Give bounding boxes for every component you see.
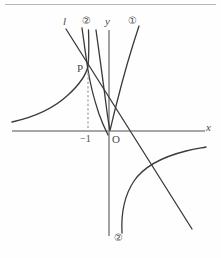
curve-2-bottom-label: ② bbox=[114, 233, 123, 243]
curve-1-label: ① bbox=[128, 16, 137, 26]
math-figure: l ② y ① P −1 O x ② bbox=[0, 0, 221, 258]
point-p-label: P bbox=[77, 63, 83, 74]
y-axis-label: y bbox=[105, 16, 110, 27]
curve-hyperbola-upper-left bbox=[12, 30, 89, 122]
curve-parabola bbox=[96, 26, 139, 131]
x-axis-label: x bbox=[206, 122, 211, 133]
line-l-label: l bbox=[63, 16, 66, 27]
figure-canvas bbox=[0, 0, 221, 258]
curve-steep-through-p bbox=[82, 28, 108, 135]
curve-hyperbola-lower-right bbox=[122, 147, 206, 233]
curve-2-top-label: ② bbox=[82, 16, 91, 26]
origin-label: O bbox=[112, 134, 120, 145]
x-tick-label-minus-one: −1 bbox=[80, 134, 91, 144]
